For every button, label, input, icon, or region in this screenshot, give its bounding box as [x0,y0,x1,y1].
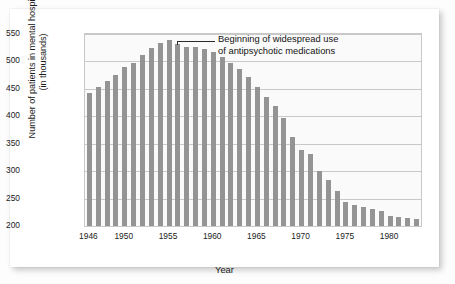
y-tick-label: 450 [0,83,20,93]
bar [414,219,419,226]
bar [202,49,207,226]
bar [405,218,410,226]
bar [220,57,225,226]
bar [113,75,118,226]
x-tick-label: 1980 [380,231,399,241]
x-tick-label: 1946 [79,231,98,241]
bar [96,87,101,226]
bar [122,67,127,226]
bar [299,150,304,226]
bar [264,97,269,226]
x-tick-label: 1955 [159,231,178,241]
bar [158,43,163,226]
bar [131,63,136,226]
bar [281,118,286,226]
annotation-label: Beginning of widespread use of antipsych… [218,33,338,58]
y-tick-label: 200 [0,220,20,230]
y-axis-title-text: Number of patients in mental hospitals (… [27,0,49,138]
bar [105,81,110,226]
bar [255,87,260,226]
bar [370,209,375,226]
y-tick-label: 550 [0,28,20,38]
bar [175,44,180,226]
bar [290,137,295,226]
bar [167,40,172,226]
y-tick-label: 300 [0,165,20,175]
bar [87,93,92,226]
annotation-leader-line [177,41,215,42]
bar [193,47,198,226]
bar [211,52,216,226]
bars-layer [85,34,421,226]
bar [326,180,331,226]
annotation-leader-tick [177,41,178,45]
bar [273,106,278,226]
y-tick-label: 500 [0,55,20,65]
bar [352,205,357,226]
x-tick-label: 1975 [336,231,355,241]
bar [237,69,242,226]
figure-card: 200250300350400450500550 194619501955196… [10,9,439,267]
figure-root: 200250300350400450500550 194619501955196… [0,0,455,284]
x-axis-title: Year [10,265,439,275]
bar [246,77,251,226]
x-tick-label: 1970 [291,231,310,241]
y-axis-title: Number of patients in mental hospitals (… [18,0,58,160]
bar [335,191,340,226]
y-tick-label: 250 [0,193,20,203]
bar [396,217,401,226]
bar [361,207,366,226]
y-tick-label: 400 [0,110,20,120]
bar [184,47,189,226]
x-tick-label: 1950 [114,231,133,241]
x-tick-label: 1965 [247,231,266,241]
y-tick-label: 350 [0,138,20,148]
bar [343,202,348,226]
bar [140,55,145,226]
bar [308,154,313,226]
plot-area [84,33,422,227]
bar [317,171,322,226]
bar [379,211,384,226]
bar [149,48,154,226]
bar [388,216,393,226]
bar [228,63,233,226]
x-tick-label: 1960 [203,231,222,241]
